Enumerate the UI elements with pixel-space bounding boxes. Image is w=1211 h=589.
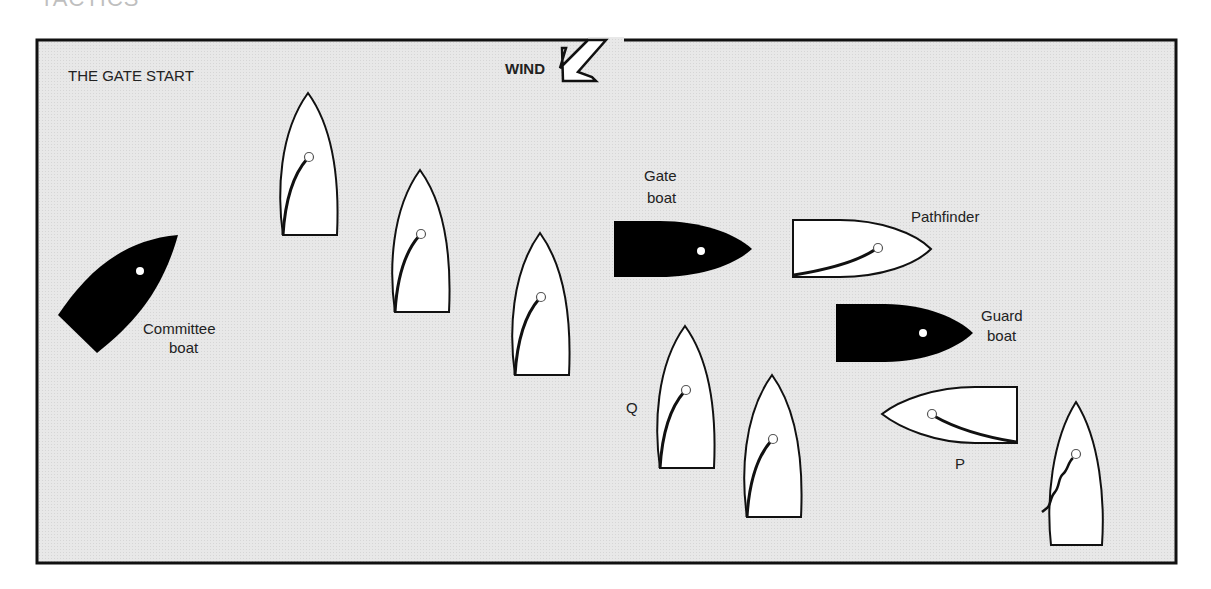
diagram-title: THE GATE START [68,67,194,84]
gate-start-diagram: WIND THE GATE START Committee boat Gate … [0,0,1211,589]
committee-boat-label-line1: Committee [143,320,216,337]
p-label: P [955,455,965,472]
wind-label: WIND [505,60,545,77]
pathfinder-label: Pathfinder [911,208,979,225]
q-label: Q [626,399,638,416]
guard-boat-label-line1: Guard [981,307,1023,324]
committee-boat-label-line2: boat [169,339,199,356]
water-area [37,40,1176,563]
gate-boat-label-line1: Gate [644,167,677,184]
gate-boat-label-line2: boat [647,189,677,206]
guard-boat-label-line2: boat [987,327,1017,344]
